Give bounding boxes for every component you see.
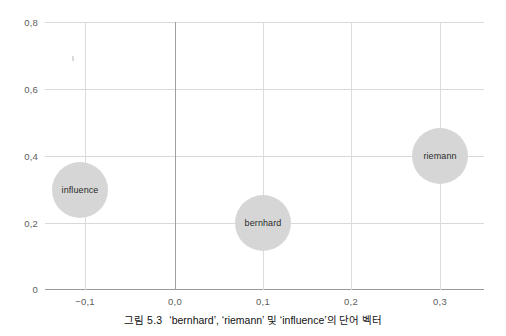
data-point-label-influence: influence <box>62 185 99 195</box>
x-tick-label-0.0: 0,0 <box>168 296 182 307</box>
data-point-label-riemann: riemann <box>423 151 456 161</box>
x-tick-label-0.1: 0,1 <box>256 296 270 307</box>
data-point-influence[interactable]: influence <box>52 162 108 218</box>
data-point-label-bernhard: bernhard <box>245 218 282 228</box>
y-tick-label-0.6: 0,6 <box>24 84 38 95</box>
gridline-y-0.6 <box>45 89 484 90</box>
x-tick-label--0.1: −0,1 <box>75 296 95 307</box>
x-axis-line <box>45 289 484 290</box>
data-point-riemann[interactable]: riemann <box>412 128 468 184</box>
y-tick-label-0.4: 0,4 <box>24 151 38 162</box>
figure-caption-text: ‘bernhard’, ‘riemann’ 및 ‘influence’의 단어 … <box>169 314 382 326</box>
gridline-x--0.1 <box>85 22 86 290</box>
gridline-x-0.2 <box>351 22 352 290</box>
y-tick-label-0.2: 0,2 <box>24 218 38 229</box>
figure-caption-number: 그림 5.3 <box>124 314 163 326</box>
scan-artifact-speck <box>72 56 74 61</box>
x-tick-label-0.3: 0,3 <box>433 296 447 307</box>
scatter-plot-area: 0,8 0,6 0,4 0,2 0 −0,1 0,0 0,1 0,2 0,3 i… <box>45 22 484 290</box>
data-point-bernhard[interactable]: bernhard <box>235 195 291 251</box>
x-tick-label-0.2: 0,2 <box>344 296 358 307</box>
y-axis-zero-line <box>175 22 176 290</box>
y-tick-label-0: 0 <box>33 284 38 295</box>
figure-5-3: 0,8 0,6 0,4 0,2 0 −0,1 0,0 0,1 0,2 0,3 i… <box>0 0 506 336</box>
gridline-y-0.8 <box>45 22 484 23</box>
y-tick-label-0.8: 0,8 <box>24 17 38 28</box>
figure-caption: 그림 5.3‘bernhard’, ‘riemann’ 및 ‘influence… <box>0 312 506 327</box>
